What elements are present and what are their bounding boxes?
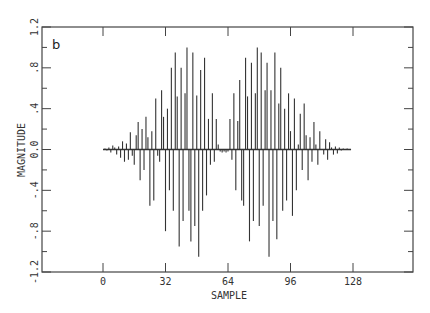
y-tick-label: -.8 <box>29 222 40 240</box>
x-tick-label: 64 <box>222 276 234 287</box>
y-tick-label: -1.2 <box>29 260 40 284</box>
stem-plot: -1.2-.8-.40.0.4.81.2 0326496128 b SAMPLE… <box>0 0 430 313</box>
y-tick-label: -.4 <box>29 181 40 199</box>
data-stems <box>103 47 351 256</box>
y-tick-label: .8 <box>29 62 40 74</box>
y-tick-label: 0.0 <box>29 140 40 158</box>
x-axis-ticks: 0326496128 <box>100 27 362 287</box>
x-axis-label: SAMPLE <box>211 290 247 301</box>
y-axis-ticks: -1.2-.8-.40.0.4.81.2 <box>29 18 413 284</box>
x-tick-label: 128 <box>344 276 362 287</box>
y-tick-label: .4 <box>29 103 40 115</box>
x-tick-label: 96 <box>284 276 296 287</box>
panel-label: b <box>52 37 60 52</box>
y-tick-label: 1.2 <box>29 18 40 36</box>
x-tick-label: 32 <box>159 276 171 287</box>
y-axis-label: MAGNITUDE <box>16 123 27 177</box>
x-tick-label: 0 <box>100 276 106 287</box>
